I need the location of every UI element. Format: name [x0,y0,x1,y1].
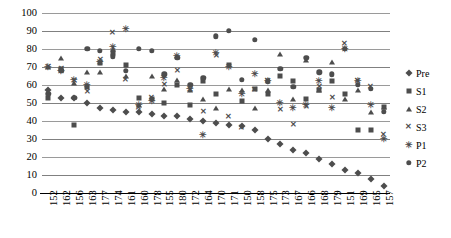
data-point-P1-160: ✳ [135,101,143,109]
data-point-P2-178 [149,48,154,53]
data-point-Pre-162 [58,94,65,101]
x-tick-label: 156 [67,196,81,236]
y-tick-label: 30 [5,134,37,144]
data-point-Pre-161 [122,108,129,115]
data-point-P2-161 [123,68,128,73]
data-point-Pre-163 [84,99,91,106]
legend-item-Pre[interactable]: Pre [404,64,450,82]
data-point-P1-152: ✳ [44,63,52,71]
data-point-P1-174: ✳ [109,43,117,51]
x-tick-label: 162 [54,196,68,236]
data-point-S2-167 [290,97,296,102]
x-tick-label: 175 [261,196,275,236]
x-tick-label: 161 [119,196,133,236]
data-point-S2-164 [200,97,206,102]
legend-label: S3 [416,122,427,133]
data-point-P1-168: ✳ [315,77,323,85]
x-tick-label: 168 [312,196,326,236]
data-point-S1-170 [214,92,219,97]
data-point-P1-150: ✳ [238,90,246,98]
gridline-50 [42,103,390,104]
data-point-S1-173 [278,74,283,79]
data-point-S2-170 [213,106,219,111]
data-point-S3-171: ✕ [225,113,233,121]
legend-marker-diamond-icon [404,69,413,78]
data-point-P1-166: ✳ [302,101,310,109]
data-point-P2-174 [110,53,115,58]
y-tick-label: 70 [5,62,37,72]
data-point-S3-150: ✕ [238,124,246,132]
data-point-Pre-167 [290,146,297,153]
data-point-S2-163 [84,70,90,75]
legend-marker-star-icon: ✳ [404,141,413,150]
y-tick-label: 50 [5,98,37,108]
data-point-S3-158: ✕ [251,86,259,94]
legend-item-S3[interactable]: ✕S3 [404,118,450,136]
x-tick-label: 165 [364,196,378,236]
x-tick-label: 157 [377,196,391,236]
x-tick-label: 169 [351,196,365,236]
data-point-S2-180 [174,77,180,82]
data-point-P1-165: ✳ [367,101,375,109]
data-point-S3-174: ✕ [109,29,117,37]
data-point-P2-169 [355,82,360,87]
legend-item-S2[interactable]: S2 [404,100,450,118]
x-tick-label: 173 [273,196,287,236]
legend-label: Pre [416,68,429,79]
data-point-Pre-157 [380,182,387,189]
legend-item-P2[interactable]: P2 [404,154,450,172]
gridline-60 [42,85,390,86]
legend-label: P1 [416,140,427,151]
x-tick-label: 178 [145,196,159,236]
data-point-Pre-173 [277,141,284,148]
x-tick-label: 150 [235,196,249,236]
gridline-100 [42,13,390,14]
data-point-S1-179 [330,79,335,84]
data-point-P2-173 [278,66,283,71]
y-tick-label: 40 [5,116,37,126]
data-point-P1-156: ✳ [70,76,78,84]
data-point-S1-165 [368,128,373,133]
data-point-P2-179 [329,71,334,76]
data-point-P1-173: ✳ [276,99,284,107]
data-point-Pre-165 [367,175,374,182]
gridline-20 [42,157,390,158]
x-tick-label: 180 [170,196,184,236]
data-point-S2-173 [277,52,283,57]
x-tick-label: 174 [106,196,120,236]
x-axis-tick-labels: 1521621561631771741611601781551801721641… [42,196,390,238]
legend-item-P1[interactable]: ✳P1 [404,136,450,154]
x-tick-text: 157 [384,190,395,206]
data-point-Pre-166 [303,150,310,157]
data-point-S2-165 [368,110,374,115]
plot-area: ✕✕✕✕✕✕✕✕✕✕✕✕✕✕✕✕✕✕✕✕✕✕✕✕✕✕✕✳✳✳✳✳✳✳✳✳✳✳✳✳… [42,13,390,193]
data-point-P2-177 [97,48,102,53]
x-tick-label: 163 [80,196,94,236]
data-point-S3-179: ✕ [328,94,336,102]
data-point-Pre-151 [341,166,348,173]
data-point-S1-180 [175,83,180,88]
data-point-Pre-158 [251,126,258,133]
data-point-P1-179: ✳ [328,104,336,112]
data-point-P2-163 [84,46,89,51]
data-point-Pre-155 [161,112,168,119]
x-tick-label: 155 [157,196,171,236]
data-point-P2-156 [72,95,77,100]
legend-item-S1[interactable]: S1 [404,82,450,100]
legend-marker-square-icon [404,87,413,96]
data-point-S1-169 [355,128,360,133]
legend-label: S1 [416,86,427,97]
data-point-S2-178 [149,74,155,79]
data-point-P1-161: ✳ [122,25,130,33]
data-point-Pre-180 [174,112,181,119]
legend-marker-triangle-icon [404,105,413,114]
data-point-S3-164: ✕ [199,108,207,116]
x-tick-label: 167 [286,196,300,236]
gridline-90 [42,31,390,32]
data-point-P2-158 [252,37,257,42]
data-point-S2-162 [58,56,64,61]
data-point-Pre-175 [264,135,271,142]
data-point-S3-161: ✕ [122,76,130,84]
data-point-Pre-164 [200,117,207,124]
data-point-Pre-174 [109,107,116,114]
